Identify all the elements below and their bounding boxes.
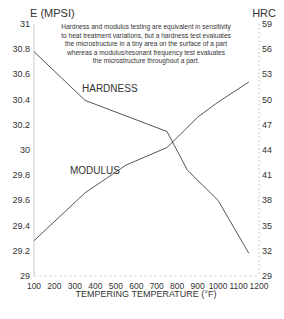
x-tick-label: 100 bbox=[27, 281, 41, 291]
x-tick-label: 500 bbox=[109, 281, 123, 291]
left-tick-label: 30.8 bbox=[12, 44, 30, 54]
right-tick-label: 59 bbox=[262, 19, 272, 29]
right-tick-label: 47 bbox=[262, 120, 272, 130]
right-tick-label: 32 bbox=[262, 246, 272, 256]
x-tick-label: 1200 bbox=[250, 281, 269, 291]
x-tick-label: 1100 bbox=[229, 281, 248, 291]
left-tick-label: 29.8 bbox=[12, 170, 30, 180]
right-tick-label: 44 bbox=[262, 145, 272, 155]
left-tick-label: 30 bbox=[20, 145, 30, 155]
left-tick-label: 29.4 bbox=[12, 221, 30, 231]
modulus-line bbox=[34, 82, 249, 241]
x-tick-label: 900 bbox=[191, 281, 205, 291]
left-tick-label: 30.2 bbox=[12, 120, 30, 130]
chart: E (MPSI) HRC TEMPERING TEMPERATURE (°F) … bbox=[0, 0, 284, 319]
note-line: the microstructure throughout a part. bbox=[93, 57, 200, 65]
right-ticks: 2932353841444750535659 bbox=[262, 19, 272, 281]
note-line: whereas a modulus/resonant frequency tes… bbox=[66, 49, 226, 57]
x-tick-label: 300 bbox=[68, 281, 82, 291]
right-tick-label: 50 bbox=[262, 95, 272, 105]
right-tick-label: 56 bbox=[262, 44, 272, 54]
note-text: Hardness and modulus testing are equival… bbox=[61, 23, 231, 65]
right-tick-label: 38 bbox=[262, 195, 272, 205]
hardness-label: HARDNESS bbox=[82, 83, 138, 94]
x-tick-label: 400 bbox=[88, 281, 102, 291]
x-tick-label: 700 bbox=[150, 281, 164, 291]
left-tick-label: 30.4 bbox=[12, 95, 30, 105]
x-tick-label: 800 bbox=[170, 281, 184, 291]
series-lines bbox=[34, 52, 249, 254]
left-tick-label: 29.2 bbox=[12, 246, 30, 256]
right-axis-label: HRC bbox=[252, 7, 276, 19]
left-tick-label: 31 bbox=[20, 19, 30, 29]
left-ticks: 2929.229.429.629.83030.230.430.630.831 bbox=[12, 19, 30, 281]
right-tick-label: 53 bbox=[262, 69, 272, 79]
right-tick-label: 35 bbox=[262, 221, 272, 231]
x-tick-label: 1000 bbox=[209, 281, 228, 291]
left-tick-label: 29.6 bbox=[12, 195, 30, 205]
left-tick-label: 29 bbox=[20, 271, 30, 281]
note-line: to heat treatment variations, but a hard… bbox=[61, 32, 231, 39]
right-tick-label: 41 bbox=[262, 170, 272, 180]
x-tick-label: 200 bbox=[47, 281, 61, 291]
left-axis-label: E (MPSI) bbox=[30, 7, 75, 19]
modulus-label: MODULUS bbox=[70, 165, 120, 176]
right-tick-label: 29 bbox=[262, 271, 272, 281]
x-tick-label: 600 bbox=[129, 281, 143, 291]
note-line: the microstructure in a tiny area on the… bbox=[65, 40, 227, 48]
hardness-line bbox=[34, 52, 249, 254]
left-tick-label: 30.6 bbox=[12, 69, 30, 79]
note-line: Hardness and modulus testing are equival… bbox=[61, 23, 231, 31]
